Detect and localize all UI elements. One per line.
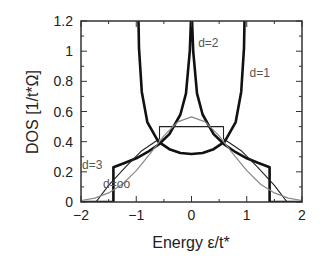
label-d-2: d=2 [198, 36, 219, 50]
label-d-3: d=3 [82, 158, 103, 172]
x-tick-label: −1 [128, 207, 144, 223]
y-tick-label: 0.8 [54, 73, 74, 89]
y-tick-label: 0.4 [54, 134, 74, 150]
dos-chart: −2−101200.20.40.60.811.2 d=1d=2d=3d=oo E… [0, 0, 320, 264]
x-tick-label: 2 [298, 207, 306, 223]
x-tick-label: 0 [188, 207, 196, 223]
y-tick-label: 1.2 [54, 13, 74, 29]
x-tick-label: 1 [243, 207, 251, 223]
y-tick-label: 1 [65, 43, 73, 59]
label-d-oo: d=oo [103, 177, 130, 191]
label-d-1: d=1 [250, 66, 271, 80]
x-tick-label: −2 [73, 207, 89, 223]
y-axis-title: DOS [1/t*Ω] [24, 70, 41, 154]
curve-d-2 [81, 6, 302, 202]
curves [81, 0, 302, 202]
x-axis-title: Energy ε/t* [152, 234, 229, 251]
y-tick-label: 0.2 [54, 164, 74, 180]
y-tick-label: 0 [65, 194, 73, 210]
curve-labels: d=1d=2d=3d=oo [82, 36, 270, 192]
y-tick-label: 0.6 [54, 104, 74, 120]
